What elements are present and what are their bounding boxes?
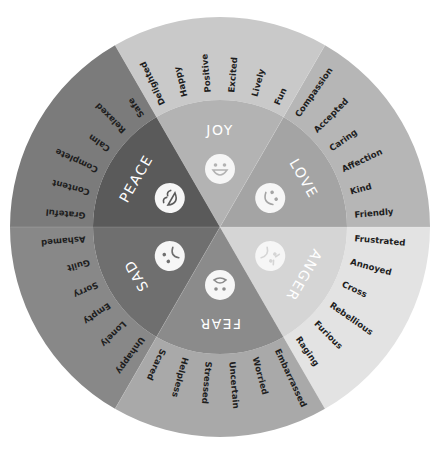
sector-label: JOY <box>205 122 233 138</box>
emotion-wheel: DelightedHappyPositiveExcitedLivelyFunJO… <box>0 0 440 452</box>
scared-face-icon <box>205 270 235 300</box>
big-grin-face-icon <box>205 154 235 184</box>
sector-label: FEAR <box>199 316 241 332</box>
